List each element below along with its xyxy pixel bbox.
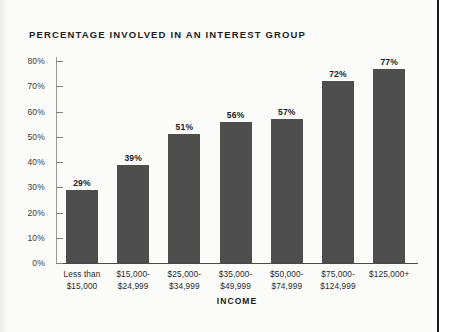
y-axis-tick-label: 10%	[27, 233, 45, 243]
y-axis-tick	[56, 263, 63, 264]
bar	[168, 134, 200, 263]
bar-value-label: 39%	[108, 153, 158, 163]
x-axis-category-label: $125,000+	[359, 269, 419, 281]
y-axis-tick-label: 60%	[27, 107, 45, 117]
bar	[322, 81, 354, 263]
bar	[66, 190, 98, 263]
figure-page: PERCENTAGE INVOLVED IN AN INTEREST GROUP…	[0, 0, 450, 332]
bar-value-label: 57%	[262, 107, 312, 117]
x-axis-category-line: $124,999	[308, 281, 368, 293]
y-axis-tick-label: 80%	[27, 56, 45, 66]
bar-value-label: 29%	[57, 178, 107, 188]
bar	[117, 165, 149, 263]
bar	[271, 119, 303, 263]
x-axis-title: INCOME	[56, 296, 418, 306]
bar	[373, 69, 405, 263]
y-axis-ticks: 0%10%20%30%40%50%60%70%80%	[0, 0, 57, 332]
x-axis-line	[56, 263, 418, 264]
bar	[220, 122, 252, 263]
y-axis-tick-label: 40%	[27, 157, 45, 167]
y-axis-tick-label: 70%	[27, 81, 45, 91]
y-axis-tick-label: 30%	[27, 182, 45, 192]
bar-value-label: 72%	[313, 69, 363, 79]
bar-value-label: 51%	[159, 122, 209, 132]
bar-value-label: 56%	[211, 110, 261, 120]
x-axis-category-line: $125,000+	[359, 269, 419, 281]
y-axis-tick-label: 20%	[27, 208, 45, 218]
chart-title: PERCENTAGE INVOLVED IN AN INTEREST GROUP	[29, 29, 306, 40]
y-axis-tick-label: 50%	[27, 132, 45, 142]
y-axis-tick-label: 0%	[32, 258, 45, 268]
page-gutter-margin	[439, 0, 450, 332]
bar-value-label: 77%	[364, 57, 414, 67]
bar-chart-figure: PERCENTAGE INVOLVED IN AN INTEREST GROUP…	[0, 0, 437, 332]
